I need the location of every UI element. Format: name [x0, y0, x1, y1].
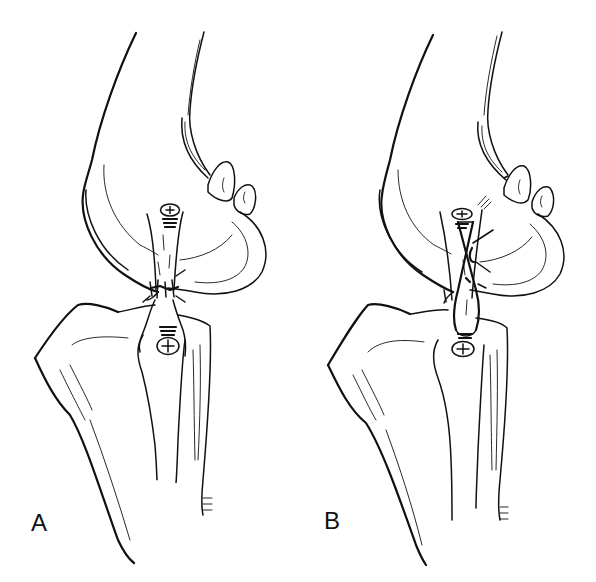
panel-b: B — [298, 0, 596, 582]
panel-a: A — [0, 0, 298, 582]
knee-illustration-figure: A — [0, 0, 596, 582]
panel-label-b: B — [324, 509, 340, 533]
femur-b — [379, 32, 508, 292]
screw-bottom-b — [452, 334, 474, 357]
patella-a — [208, 162, 256, 215]
tibia-b — [328, 304, 508, 565]
screw-bottom-a — [157, 327, 179, 355]
screw-top-a — [161, 204, 180, 227]
knee-drawing-a — [0, 0, 298, 582]
femur-a — [83, 32, 210, 292]
knee-drawing-b — [298, 0, 596, 582]
patella-b — [504, 166, 554, 217]
screw-top-b — [452, 209, 472, 229]
panel-label-a: A — [31, 511, 47, 535]
